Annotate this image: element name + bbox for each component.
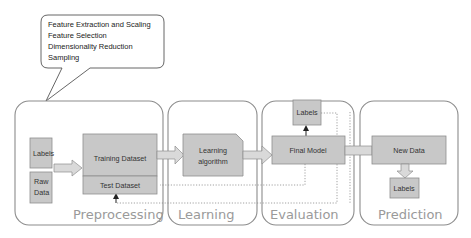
phase-label-prediction: Prediction (378, 207, 443, 222)
callout-bubble: Feature Extraction and Scaling Feature S… (41, 15, 164, 101)
eval-labels-text: Labels (296, 108, 318, 117)
phase-label-evaluation: Evaluation (270, 207, 339, 222)
learning-algorithm-text-1: Learning (199, 146, 227, 155)
pred-labels-text: Labels (393, 184, 415, 193)
pre-labels-text: Labels (33, 149, 55, 158)
phase-label-learning: Learning (178, 207, 234, 222)
raw-data-text-2: Data (34, 188, 49, 197)
new-data-text: New Data (393, 146, 425, 155)
training-dataset-text: Training Dataset (94, 154, 146, 163)
callout-line-4: Sampling (48, 53, 79, 62)
callout-line-2: Feature Selection (48, 31, 107, 40)
phase-label-preprocessing: Preprocessing (73, 207, 164, 222)
raw-data-text-1: Raw (34, 177, 49, 186)
callout-line-3: Dimensionality Reduction (48, 42, 133, 51)
learning-algorithm-text-2: algorithm (198, 157, 228, 166)
final-model-text: Final Model (289, 146, 327, 155)
ml-workflow-diagram: Feature Extraction and Scaling Feature S… (0, 0, 471, 238)
learning-algorithm-box (183, 134, 243, 176)
connector-to-new-data (345, 146, 372, 155)
test-dataset-text: Test Dataset (100, 181, 140, 190)
callout-line-1: Feature Extraction and Scaling (48, 20, 151, 29)
